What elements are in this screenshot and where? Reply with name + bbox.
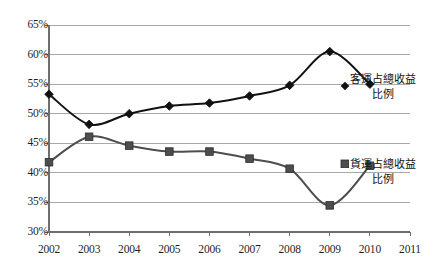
series-label-freight-line1: 貨運占總收益 (350, 157, 416, 172)
x-tick-label: 2005 (147, 244, 191, 256)
x-axis-tick-labels: 2002200320042005200620072008200920102011 (0, 0, 448, 276)
x-tick-label: 2003 (67, 244, 111, 256)
x-tick-label: 2011 (388, 244, 432, 256)
x-tick-label: 2010 (348, 244, 392, 256)
x-tick-label: 2004 (107, 244, 151, 256)
x-tick-label: 2009 (308, 244, 352, 256)
series-label-passenger: 客運占總收益 比例 (350, 72, 416, 102)
series-label-freight: 貨運占總收益 比例 (350, 157, 416, 187)
x-tick-label: 2006 (187, 244, 231, 256)
series-label-passenger-line1: 客運占總收益 (350, 72, 416, 87)
chart-container: 65%60%55%50%45%40%35%30% 200220032004200… (0, 0, 448, 276)
series-label-passenger-line2: 比例 (350, 87, 416, 102)
x-tick-label: 2008 (268, 244, 312, 256)
x-tick-label: 2007 (228, 244, 272, 256)
series-label-freight-line2: 比例 (350, 172, 416, 187)
x-tick-label: 2002 (27, 244, 71, 256)
